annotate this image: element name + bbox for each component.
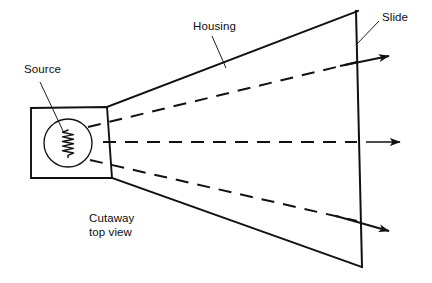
upper-ray-dashed xyxy=(88,62,357,127)
light-rays xyxy=(88,56,400,231)
upper-ray-arrow xyxy=(340,56,389,66)
diagram-canvas: Source Housing Slide Cutaway top view xyxy=(0,0,432,283)
source-label: Source xyxy=(24,63,61,77)
cutaway-top-view-caption: Cutaway top view xyxy=(89,212,134,239)
leader-lines xyxy=(40,21,379,133)
lower-ray-arrow xyxy=(336,216,389,231)
housing-cone xyxy=(107,11,362,267)
lamp-source-icon xyxy=(44,119,92,167)
housing-lower-edge xyxy=(112,178,362,267)
housing-label: Housing xyxy=(193,20,236,34)
slide-plane-line xyxy=(356,11,362,267)
slide-label: Slide xyxy=(382,11,408,25)
cutaway-top-view-figure xyxy=(0,0,432,283)
filament-coil-icon xyxy=(63,130,74,158)
slide-leader-line xyxy=(356,21,379,45)
